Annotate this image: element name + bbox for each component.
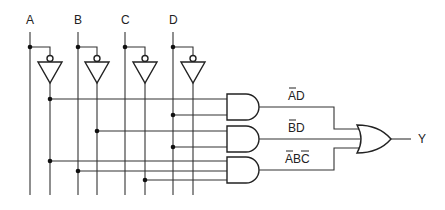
svg-text:BD: BD [288, 121, 305, 135]
and-gate-1 [227, 94, 259, 120]
and-gate-3 [227, 157, 259, 183]
inverter-branches [28, 45, 193, 55]
inverter-c [133, 56, 157, 84]
output-label-y: Y [418, 132, 426, 146]
or-gate [357, 125, 391, 153]
and-gate-2 [227, 126, 259, 152]
inverted-lines [50, 83, 193, 195]
input-label-c: C [121, 13, 130, 27]
logic-circuit-diagram: A B C D [0, 0, 445, 210]
inverter-a [38, 56, 62, 84]
input-label-b: B [74, 13, 82, 27]
svg-text:ABC: ABC [285, 152, 310, 166]
input-label-a: A [26, 13, 34, 27]
inverter-d [181, 56, 205, 84]
term-label-abc: ABC [285, 151, 310, 166]
and-input-wires [48, 97, 227, 183]
term-label-bd: BD [288, 120, 305, 135]
input-label-d: D [169, 13, 178, 27]
and-output-wires [259, 107, 362, 170]
term-label-ad: AD [288, 88, 305, 103]
svg-text:AD: AD [288, 89, 305, 103]
inverter-b [85, 56, 109, 84]
